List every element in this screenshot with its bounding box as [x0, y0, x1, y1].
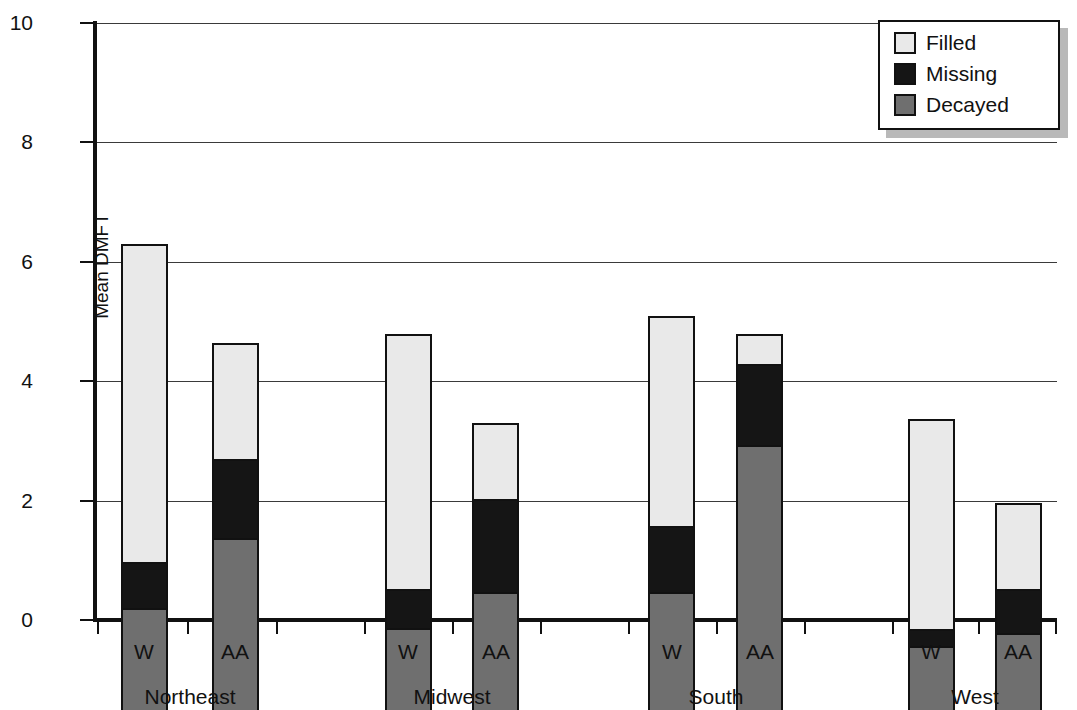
bar-midwest-aa [472, 423, 519, 710]
x-tick-4 [452, 620, 454, 634]
divider-filled-missing [995, 589, 1042, 591]
segment-missing [648, 528, 695, 594]
x-sub-label-northeast-w: W [104, 640, 184, 664]
x-sub-label-midwest-w: W [368, 640, 448, 664]
x-tick-8 [804, 620, 806, 634]
legend-label-missing: Missing [926, 63, 997, 85]
segment-missing [736, 366, 783, 447]
segment-filled [648, 316, 695, 528]
divider-filled-missing [121, 562, 168, 564]
divider-filled-missing [212, 459, 259, 461]
segment-missing [212, 461, 259, 540]
gridline-6 [97, 262, 1057, 263]
segment-filled [908, 419, 955, 631]
legend-label-decayed: Decayed [926, 94, 1009, 116]
x-tick-6 [628, 620, 630, 634]
divider-filled-missing [736, 364, 783, 366]
legend-item-decayed[interactable]: Decayed [894, 92, 1009, 118]
legend-item-missing[interactable]: Missing [894, 61, 997, 87]
x-sub-label-west-w: W [891, 640, 971, 664]
x-tick-11 [1055, 620, 1057, 634]
x-tick-9 [892, 620, 894, 634]
segment-missing [121, 564, 168, 610]
y-axis-title: Mean DMFT [91, 156, 113, 376]
segment-missing [385, 591, 432, 630]
x-sub-label-south-w: W [632, 640, 712, 664]
segment-filled [995, 503, 1042, 591]
segment-filled [472, 423, 519, 501]
segment-decayed [736, 447, 783, 710]
legend: Filled Missing Decayed [878, 20, 1060, 130]
divider-filled-missing [648, 526, 695, 528]
y-tick-10 [80, 22, 97, 24]
legend-label-filled: Filled [926, 32, 976, 54]
x-tick-10 [978, 620, 980, 634]
x-tick-2 [276, 620, 278, 634]
divider-missing-decayed [121, 608, 168, 610]
x-tick-3 [364, 620, 366, 634]
x-tick-1 [187, 620, 189, 634]
x-group-label-midwest: Midwest [352, 685, 552, 709]
y-tick-label-2: 2 [21, 490, 33, 511]
divider-missing-decayed [385, 628, 432, 630]
y-tick-4 [80, 380, 97, 382]
segment-missing [995, 591, 1042, 635]
x-sub-label-midwest-aa: AA [456, 640, 536, 664]
y-tick-label-8: 8 [21, 131, 33, 152]
legend-swatch-decayed-icon [894, 94, 916, 116]
gridline-8 [97, 142, 1057, 143]
segment-filled [212, 343, 259, 461]
y-tick-label-6: 6 [21, 251, 33, 272]
divider-filled-missing [472, 499, 519, 501]
x-tick-5 [540, 620, 542, 634]
segment-missing [472, 501, 519, 594]
x-tick-7 [716, 620, 718, 634]
x-sub-label-south-aa: AA [720, 640, 800, 664]
divider-missing-decayed [648, 592, 695, 594]
dmft-stacked-bar-chart: 10 8 6 4 2 0 Mean DMFT [0, 0, 1077, 710]
x-sub-label-west-aa: AA [978, 640, 1058, 664]
legend-swatch-filled-icon [894, 32, 916, 54]
x-sub-label-northeast-aa: AA [195, 640, 275, 664]
segment-filled [736, 334, 783, 366]
y-tick-0 [80, 619, 97, 621]
bar-west-w [908, 419, 955, 710]
y-tick-label-4: 4 [21, 370, 33, 391]
segment-filled [121, 244, 168, 564]
divider-missing-decayed [472, 592, 519, 594]
x-tick-0 [97, 620, 99, 634]
divider-filled-missing [908, 629, 955, 631]
divider-filled-missing [385, 589, 432, 591]
y-tick-8 [80, 141, 97, 143]
legend-swatch-missing-icon [894, 63, 916, 85]
x-group-label-south: South [616, 685, 816, 709]
legend-item-filled[interactable]: Filled [894, 30, 976, 56]
y-tick-label-10: 10 [10, 12, 33, 33]
y-tick-label-0: 0 [21, 609, 33, 630]
x-group-label-northeast: Northeast [90, 685, 290, 709]
y-tick-2 [80, 500, 97, 502]
divider-missing-decayed [212, 538, 259, 540]
segment-filled [385, 334, 432, 591]
bar-west-aa [995, 503, 1042, 710]
divider-missing-decayed [736, 445, 783, 447]
x-group-label-west: West [875, 685, 1075, 709]
divider-missing-decayed [995, 633, 1042, 635]
